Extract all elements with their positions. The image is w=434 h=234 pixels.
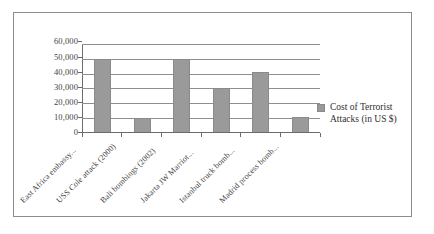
x-axis-label-istanbul-truck-bomb: Istanbul truck bomb... — [178, 146, 237, 205]
bar-slot-madrid-process-bomb — [281, 44, 321, 133]
x-axis-tick-0 — [82, 133, 83, 137]
bar-jakarta-jw-marriot[interactable] — [213, 88, 230, 133]
x-axis-label-uss-cole-attack: USS Cole attack (2000) — [55, 142, 118, 205]
y-axis-label-0: 0 — [28, 128, 78, 137]
y-axis-label-50000: 50,000 — [28, 53, 78, 62]
legend-swatch-icon — [317, 104, 325, 112]
bar-bali-bombings[interactable] — [173, 59, 190, 133]
bar-slot-east-africa-embassy — [83, 44, 123, 133]
x-axis-label-east-africa-embassy: East Africa embassy... — [19, 146, 78, 205]
bar-east-africa-embassy[interactable] — [94, 59, 111, 133]
bar-series — [83, 44, 320, 133]
x-axis-label-bali-bombings: Bali bombings (2002) — [99, 146, 158, 205]
y-axis-label-30000: 30,000 — [28, 83, 78, 92]
bar-slot-istanbul-truck-bomb — [241, 44, 281, 133]
x-axis-tick-3 — [201, 133, 202, 137]
x-axis-tick-5 — [280, 133, 281, 137]
x-axis-tick-4 — [240, 133, 241, 137]
chart-frame: 60,000 50,000 40,000 30,000 20,000 10,00… — [13, 12, 412, 217]
y-axis-label-10000: 10,000 — [28, 113, 78, 122]
bar-uss-cole-attack[interactable] — [134, 118, 151, 133]
x-axis-label-jakarta-jw-marriot: Jakarta JW Marriot... — [139, 148, 196, 205]
y-axis-labels: 60,000 50,000 40,000 30,000 20,000 10,00… — [28, 37, 78, 140]
bar-madrid-process-bomb[interactable] — [292, 117, 309, 133]
chart-legend: Cost of Terrorist Attacks (in US $) — [317, 102, 412, 125]
chart-screenshot: 60,000 50,000 40,000 30,000 20,000 10,00… — [0, 0, 434, 234]
legend-entry-label: Cost of Terrorist Attacks (in US $) — [330, 102, 408, 125]
y-axis-tick-60000 — [78, 41, 82, 42]
y-axis-label-40000: 40,000 — [28, 68, 78, 77]
plot-area — [82, 44, 320, 133]
y-axis-label-20000: 20,000 — [28, 98, 78, 107]
bar-slot-jakarta-jw-marriot — [202, 44, 242, 133]
x-axis-tick-2 — [161, 133, 162, 137]
bar-slot-uss-cole-attack — [123, 44, 163, 133]
bar-istanbul-truck-bomb[interactable] — [252, 72, 269, 133]
y-axis-label-60000: 60,000 — [28, 37, 78, 46]
x-axis-tick-1 — [121, 133, 122, 137]
bar-slot-bali-bombings — [162, 44, 202, 133]
x-axis-tick-6 — [320, 133, 321, 137]
x-axis-label-madrid-process-bomb: Madrid process bomb... — [218, 142, 281, 205]
